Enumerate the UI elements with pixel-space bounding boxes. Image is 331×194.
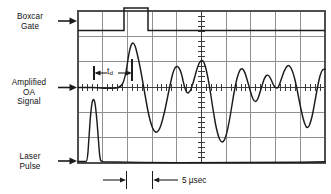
center-axes-group — [78, 11, 325, 163]
amplified-oa-label-line2: OA — [0, 88, 58, 98]
amplified-oa-signal-label: Amplified OA Signal — [0, 78, 58, 107]
boxcar-gate-label-line1: Boxcar — [2, 12, 58, 22]
timebase-annotation — [103, 171, 178, 189]
oscilloscope-figure: Boxcar Gate Amplified OA Signal Laser Pu… — [0, 0, 331, 194]
laser-pulse-label: Laser Pulse — [2, 152, 58, 171]
td-right-arrow-head — [126, 71, 132, 76]
td-left-arrow-head — [95, 71, 101, 76]
laser-pulse-label-line2: Pulse — [2, 162, 58, 172]
boxcar-gate-arrow-head — [70, 18, 78, 25]
boxcar-gate-label-line2: Gate — [2, 22, 58, 32]
laser-pulse-label-line1: Laser — [2, 152, 58, 162]
amplified-oa-label-line1: Amplified — [0, 78, 58, 88]
label-pointer-arrows — [58, 18, 77, 165]
timebase-right-arrow-head — [153, 178, 159, 183]
laser-pulse-arrow-head — [70, 158, 78, 165]
boxcar-gate-label: Boxcar Gate — [2, 12, 58, 31]
amplified-oa-arrow-head — [70, 84, 78, 91]
timebase-label: 5 µsec — [182, 176, 206, 185]
timebase-left-arrow-head — [120, 178, 126, 183]
delay-time-label: td — [107, 66, 113, 76]
amplified-oa-label-line3: Signal — [0, 97, 58, 107]
delay-time-subscript: d — [109, 69, 112, 76]
